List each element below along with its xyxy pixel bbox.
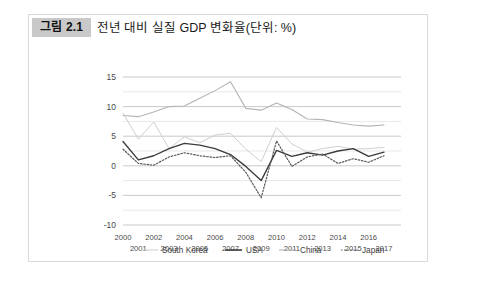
figure-number-badge: 그림 2.1 bbox=[32, 18, 91, 37]
x-tick-label: 2001 bbox=[130, 244, 147, 253]
x-tick-label: 2004 bbox=[176, 233, 193, 242]
x-tick-label: 2008 bbox=[237, 233, 254, 242]
figure-card: 그림 2.1 전년 대비 실질 GDP 변화율(단위: %) 151050-5-… bbox=[28, 14, 428, 262]
y-tick-label: -10 bbox=[104, 220, 117, 230]
chart-plot-area: 151050-5-10 2000200220042006200820102012… bbox=[29, 45, 429, 263]
x-tick-label: 2012 bbox=[299, 233, 316, 242]
x-tick-label: 2014 bbox=[329, 233, 346, 242]
y-tick-label: 10 bbox=[107, 102, 117, 112]
y-tick-label: 15 bbox=[107, 72, 117, 82]
y-tick-label: 0 bbox=[111, 161, 116, 171]
legend-label-japan: Japan bbox=[362, 246, 385, 255]
legend-label-china: China bbox=[300, 246, 322, 255]
figure-header: 그림 2.1 전년 대비 실질 GDP 변화율(단위: %) bbox=[29, 15, 427, 45]
legend-label-usa: USA bbox=[246, 246, 263, 255]
x-tick-label: 2002 bbox=[145, 233, 162, 242]
x-tick-label: 2015 bbox=[345, 244, 362, 253]
y-axis-tick-labels: 151050-5-10 bbox=[104, 72, 117, 230]
x-tick-label: 2007 bbox=[222, 244, 239, 253]
x-tick-label: 2011 bbox=[284, 244, 300, 253]
figure-title: 전년 대비 실질 GDP 변화율(단위: %) bbox=[97, 20, 296, 36]
x-tick-label: 2006 bbox=[207, 233, 224, 242]
y-tick-label: -5 bbox=[108, 190, 116, 200]
series-line-china bbox=[123, 82, 384, 126]
line-chart: 151050-5-10 2000200220042006200820102012… bbox=[29, 45, 429, 263]
x-tick-label: 2010 bbox=[268, 233, 285, 242]
series-line-south-korea bbox=[123, 113, 384, 162]
y-tick-label: 5 bbox=[111, 131, 116, 141]
legend-label-south-korea: South Korea bbox=[162, 246, 208, 255]
x-tick-label: 2000 bbox=[115, 233, 132, 242]
x-tick-label: 2016 bbox=[360, 233, 377, 242]
